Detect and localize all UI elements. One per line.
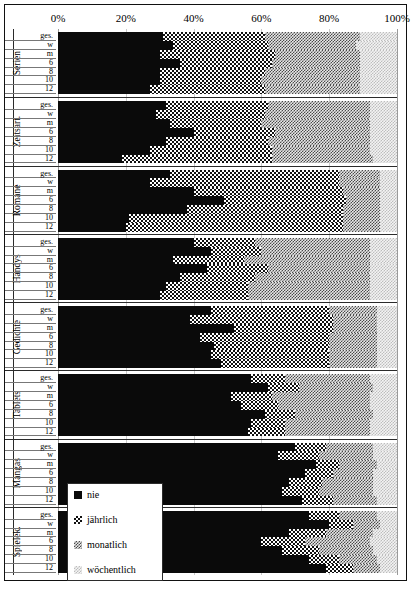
bar-segment-jaehrlich (211, 350, 330, 359)
bar-segment-monatlich (326, 529, 373, 538)
bar-segment-nie (58, 451, 278, 460)
chart-row: 6 (5, 537, 397, 546)
chart-row: 8 (5, 137, 397, 146)
bar-segment-jaehrlich (194, 187, 343, 196)
bar-segment-jaehrlich (309, 511, 340, 520)
bar-segment-jaehrlich (194, 128, 275, 137)
legend-item-jaehrlich[interactable]: jährlich (74, 514, 156, 525)
bar-segment-jaehrlich (160, 76, 262, 85)
chart-row: m (5, 187, 397, 196)
chart-frame: 0%20%40%60%80%100% Serienges.wm681012Zei… (4, 4, 407, 581)
chart-group-mangas: Mangasges.wm681012 (5, 439, 397, 507)
stacked-bar (58, 32, 397, 41)
bar-segment-monatlich (319, 451, 373, 460)
bar-segment-nie (58, 223, 126, 232)
bar-segment-jaehrlich (166, 137, 268, 146)
bar-segment-nie (58, 469, 305, 478)
stacked-bar (58, 170, 397, 179)
bar-segment-woechentlich (377, 333, 397, 342)
bar-segment-woechentlich (360, 59, 397, 68)
bar-segment-jaehrlich (309, 555, 340, 564)
bar-segment-jaehrlich (302, 496, 333, 505)
chart-row: ges. (5, 238, 397, 247)
legend-item-nie[interactable]: nie (74, 489, 156, 500)
bar-segment-monatlich (333, 324, 377, 333)
legend-swatch-woechentlich-icon (74, 566, 82, 574)
bar-segment-jaehrlich (166, 101, 268, 110)
bar-segment-monatlich (339, 170, 380, 179)
bar-segment-woechentlich (373, 410, 397, 419)
bar-segment-monatlich (329, 306, 376, 315)
bar-segment-monatlich (329, 350, 376, 359)
bar-segment-nie (58, 214, 129, 223)
x-axis-tick-40: 40% (184, 11, 204, 25)
chart-row: 12 (5, 496, 397, 505)
chart-group-serien: Serienges.wm681012 (5, 29, 397, 97)
row-label: 12 (5, 291, 56, 300)
chart-row: 12 (5, 223, 397, 232)
chart-row: 6 (5, 59, 397, 68)
stacked-bar (58, 324, 397, 333)
stacked-bar (58, 247, 397, 256)
bar-segment-woechentlich (360, 76, 397, 85)
bar-segment-woechentlich (380, 205, 397, 214)
bar-segment-monatlich (275, 128, 370, 137)
stacked-bar (58, 350, 397, 359)
bar-segment-woechentlich (377, 306, 397, 315)
stacked-bar (58, 291, 397, 300)
bar-segment-jaehrlich (329, 520, 353, 529)
chart-row: w (5, 41, 397, 50)
bar-segment-woechentlich (380, 178, 397, 187)
bar-segment-woechentlich (377, 460, 397, 469)
row-label: 12 (5, 564, 56, 573)
chart-row: 10 (5, 419, 397, 428)
chart-row: 6 (5, 196, 397, 205)
chart-legend: niejährlichmonatlichwöchentlich (67, 483, 163, 581)
bar-segment-woechentlich (377, 555, 397, 564)
bar-segment-jaehrlich (214, 342, 329, 351)
stacked-bar (58, 359, 397, 368)
bar-segment-monatlich (285, 374, 370, 383)
bar-segment-jaehrlich (166, 282, 247, 291)
bar-segment-nie (58, 359, 221, 368)
bar-segment-jaehrlich (190, 315, 332, 324)
bar-segment-nie (58, 68, 160, 77)
bar-segment-monatlich (346, 196, 380, 205)
x-axis-tick-60: 60% (251, 11, 271, 25)
chart-groups: Serienges.wm681012Zeitsart.ges.wm681012R… (5, 29, 397, 575)
stacked-bar (58, 419, 397, 428)
bar-segment-nie (58, 333, 200, 342)
stacked-bar (58, 59, 397, 68)
bar-segment-woechentlich (373, 451, 397, 460)
bar-segment-woechentlich (373, 478, 397, 487)
bar-segment-jaehrlich (126, 223, 343, 232)
bar-segment-jaehrlich (160, 68, 265, 77)
bar-segment-monatlich (353, 564, 380, 573)
stacked-bar (58, 392, 397, 401)
bar-segment-jaehrlich (278, 451, 319, 460)
chart-group-spielek: Spielek.ges.wm681012 (5, 507, 397, 575)
bar-segment-jaehrlich (173, 256, 244, 265)
bar-segment-jaehrlich (150, 85, 265, 94)
legend-item-woechentlich[interactable]: wöchentlich (74, 564, 156, 575)
chart-row: 8 (5, 273, 397, 282)
bar-segment-monatlich (305, 537, 369, 546)
legend-item-monatlich[interactable]: monatlich (74, 539, 156, 550)
legend-swatch-jaehrlich-icon (74, 516, 82, 524)
bar-segment-nie (58, 178, 150, 187)
bar-segment-nie (58, 205, 187, 214)
bar-segment-monatlich (244, 256, 369, 265)
stacked-bar (58, 119, 397, 128)
chart-row: m (5, 256, 397, 265)
bar-segment-woechentlich (380, 170, 397, 179)
stacked-bar (58, 76, 397, 85)
chart-row: 12 (5, 85, 397, 94)
row-label: 12 (5, 223, 56, 232)
bar-segment-monatlich (272, 59, 360, 68)
chart-row: m (5, 460, 397, 469)
chart-row: 8 (5, 68, 397, 77)
bar-segment-jaehrlich (224, 196, 346, 205)
bar-segment-woechentlich (370, 419, 397, 428)
bar-segment-jaehrlich (170, 170, 340, 179)
stacked-bar (58, 205, 397, 214)
